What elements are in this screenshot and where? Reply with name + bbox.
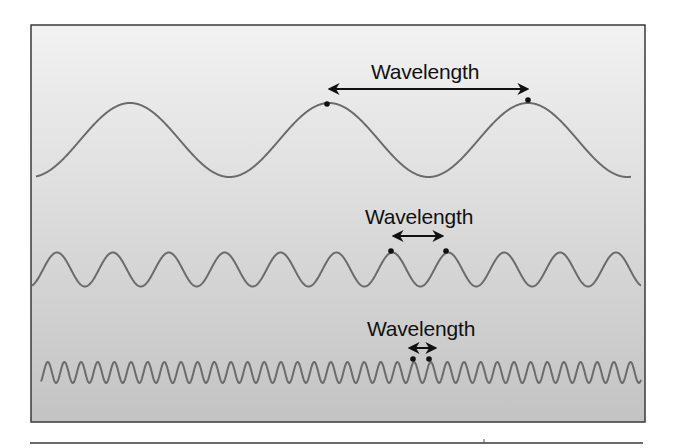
crest-marker-dot xyxy=(388,248,394,254)
crest-marker-dot xyxy=(525,97,531,103)
wavelength-label-medium: Wavelength xyxy=(365,206,473,227)
crest-marker-dot xyxy=(443,248,449,254)
wavelength-label-short: Wavelength xyxy=(367,318,475,339)
wavelength-diagram: Wavelength Wavelength Wavelength xyxy=(0,0,676,448)
diagram-canvas xyxy=(0,0,676,448)
wavelength-label-long: Wavelength xyxy=(371,61,479,82)
crest-marker-dot xyxy=(426,356,432,362)
crest-marker-dot xyxy=(324,101,330,107)
crest-marker-dot xyxy=(410,356,416,362)
figure-frame xyxy=(31,25,645,422)
